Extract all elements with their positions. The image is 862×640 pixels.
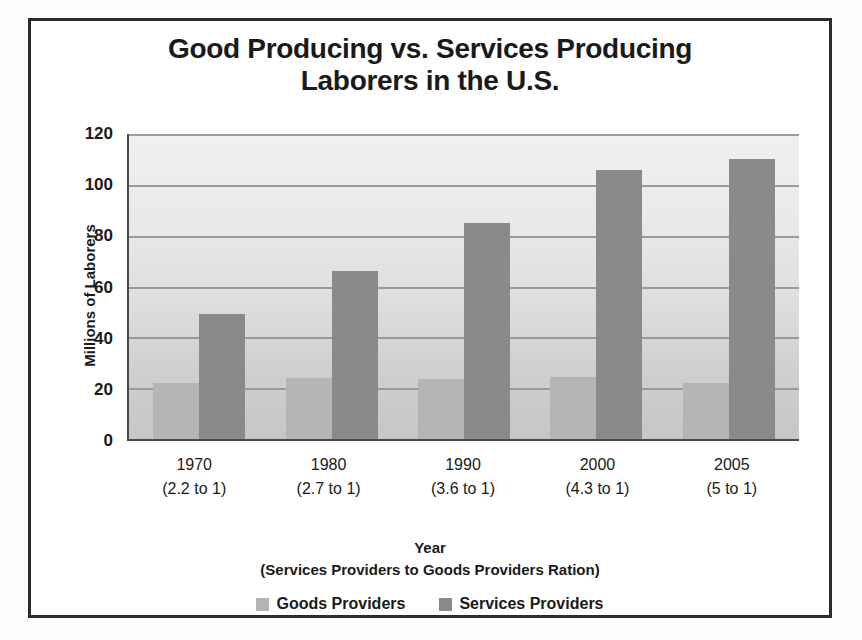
y-tick-label: 120: [85, 124, 113, 144]
x-category-2000: 2000 (4.3 to 1): [530, 453, 664, 501]
legend-swatch-icon: [439, 598, 452, 611]
x-category-year: 2005: [665, 453, 799, 477]
x-category-2005: 2005 (5 to 1): [665, 453, 799, 501]
legend-item-goods-providers[interactable]: Goods Providers: [256, 595, 405, 613]
x-axis-title: Year (Services Providers to Goods Provid…: [31, 537, 829, 581]
scanned-page: Good Producing vs. Services Producing La…: [0, 0, 862, 640]
chart-title: Good Producing vs. Services Producing La…: [31, 33, 829, 97]
bar-services-1980[interactable]: [332, 271, 378, 439]
legend-item-services-providers[interactable]: Services Providers: [439, 595, 603, 613]
bar-goods-2005[interactable]: [683, 383, 729, 439]
chart-frame: Good Producing vs. Services Producing La…: [28, 18, 832, 618]
x-category-1970: 1970 (2.2 to 1): [127, 453, 261, 501]
chart-legend: Goods Providers Services Providers: [31, 595, 829, 613]
chart-title-line-1: Good Producing vs. Services Producing: [71, 33, 789, 65]
x-category-ratio: (5 to 1): [665, 477, 799, 501]
bar-group: [398, 134, 530, 439]
bar-group: [663, 134, 795, 439]
y-tick-label: 40: [94, 329, 113, 349]
y-axis-ticks: 120 100 80 60 40 20 0: [41, 134, 121, 441]
x-category-1980: 1980 (2.7 to 1): [261, 453, 395, 501]
bar-services-2000[interactable]: [596, 170, 642, 439]
bar-services-1990[interactable]: [464, 223, 510, 439]
plot-wrapper: [127, 134, 799, 441]
y-tick-label: 0: [104, 431, 113, 451]
y-tick-label: 60: [94, 278, 113, 298]
x-category-year: 1980: [261, 453, 395, 477]
x-axis-title-main: Year: [31, 537, 829, 559]
bar-goods-2000[interactable]: [550, 377, 596, 439]
y-tick-label: 80: [94, 226, 113, 246]
bar-goods-1980[interactable]: [286, 378, 332, 439]
x-category-ratio: (2.2 to 1): [127, 477, 261, 501]
y-tick-label: 100: [85, 175, 113, 195]
bar-group: [530, 134, 662, 439]
chart-title-line-2: Laborers in the U.S.: [71, 65, 789, 97]
legend-label: Services Providers: [459, 595, 603, 613]
legend-label: Goods Providers: [276, 595, 405, 613]
x-category-1990: 1990 (3.6 to 1): [396, 453, 530, 501]
x-category-ratio: (2.7 to 1): [261, 477, 395, 501]
x-category-ratio: (4.3 to 1): [530, 477, 664, 501]
bar-services-1970[interactable]: [199, 314, 245, 439]
bar-services-2005[interactable]: [729, 159, 775, 439]
plot-area: [127, 134, 799, 441]
x-category-year: 1990: [396, 453, 530, 477]
y-tick-label: 20: [94, 380, 113, 400]
legend-swatch-icon: [256, 598, 269, 611]
x-axis-categories: 1970 (2.2 to 1) 1980 (2.7 to 1) 1990 (3.…: [127, 453, 799, 501]
x-category-year: 1970: [127, 453, 261, 477]
x-category-year: 2000: [530, 453, 664, 477]
bar-group: [133, 134, 265, 439]
bar-group: [265, 134, 397, 439]
x-axis-title-sub: (Services Providers to Goods Providers R…: [31, 559, 829, 581]
bar-goods-1990[interactable]: [418, 379, 464, 439]
x-category-ratio: (3.6 to 1): [396, 477, 530, 501]
bar-series-container: [129, 134, 799, 439]
bar-goods-1970[interactable]: [153, 383, 199, 439]
